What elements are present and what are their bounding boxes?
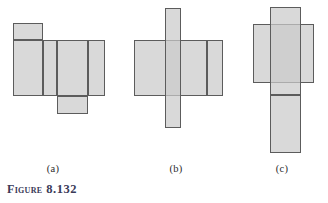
figure-caption: Figure8.132 (7, 182, 77, 197)
panel-c-vertical-upper (270, 7, 301, 95)
figure-caption-word: Figure (7, 182, 42, 196)
panel-a-middle-face (43, 40, 57, 96)
panel-label-c: (c) (262, 163, 302, 174)
figure-caption-number: 8.132 (46, 182, 77, 196)
panel-a-far-right (88, 40, 105, 96)
panel-a-right-face (57, 40, 88, 96)
panel-b-right-face (207, 40, 223, 96)
panel-a-top-flap (13, 23, 43, 40)
panel-b-vertical-strip (165, 8, 181, 128)
panel-c-vertical-lower (270, 95, 301, 153)
figure-canvas: (a)(b)(c) Figure8.132 (0, 0, 328, 203)
panel-a-left-face (13, 40, 43, 96)
panel-a-bottom-flap (57, 96, 88, 114)
panel-label-a: (a) (33, 163, 73, 174)
panel-label-b: (b) (156, 163, 196, 174)
